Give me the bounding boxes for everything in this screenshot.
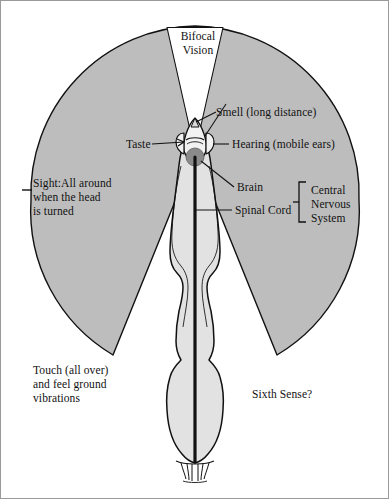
label-sight: Sight:All around when the head is turned	[33, 176, 112, 218]
label-smell: Smell (long distance)	[216, 106, 316, 120]
diagram-canvas	[0, 0, 389, 499]
label-sixth-sense: Sixth Sense?	[252, 388, 312, 402]
label-touch: Touch (all over) and feel ground vibrati…	[33, 363, 109, 405]
label-central-nervous-system: Central Nervous System	[311, 183, 351, 225]
label-spinal-cord: Spinal Cord	[235, 204, 291, 218]
label-brain: Brain	[237, 181, 263, 195]
label-bifocal-vision: Bifocal Vision	[168, 29, 228, 57]
label-hearing: Hearing (mobile ears)	[232, 138, 335, 152]
label-taste: Taste	[126, 138, 151, 152]
sensory-field-figure: Bifocal Vision Smell (long distance) Hea…	[0, 0, 389, 499]
